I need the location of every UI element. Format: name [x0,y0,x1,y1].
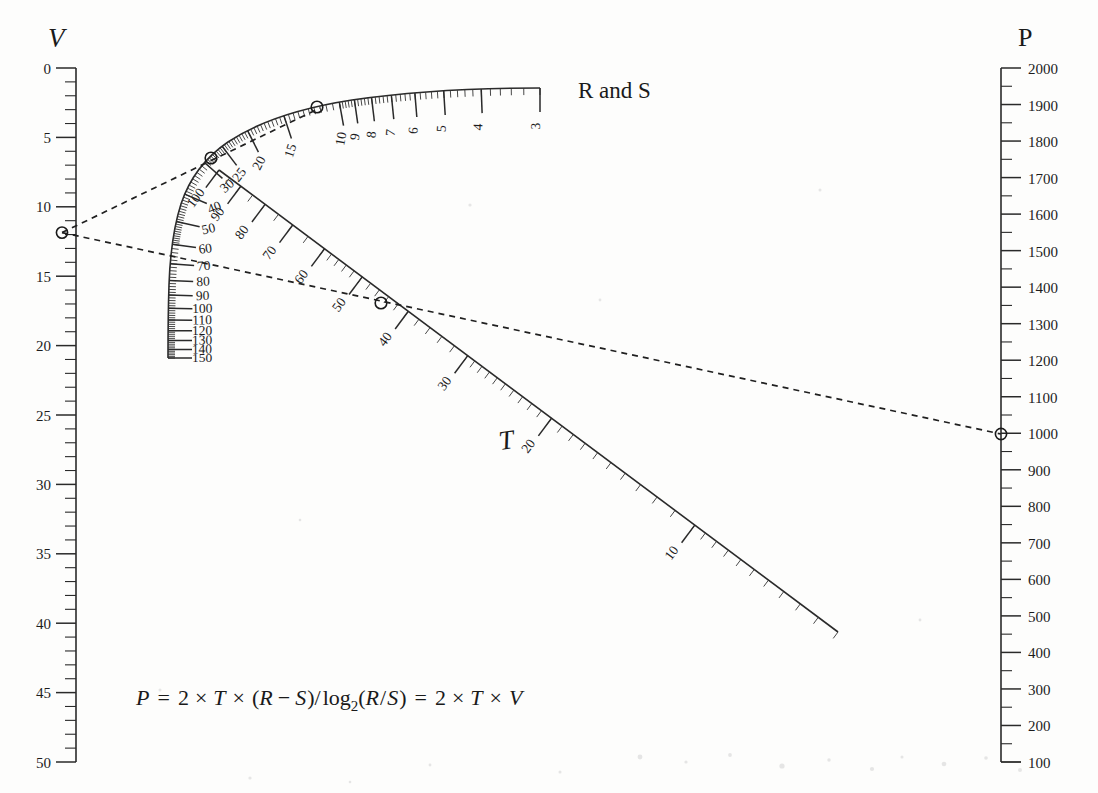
t-tick-major [455,356,468,374]
rs-tick-minor [173,238,180,239]
t-tick-minor [509,390,514,396]
t-tick-minor [425,328,430,334]
t-tick-minor [248,195,253,201]
rs-tick-minor [175,229,182,230]
t-tick-major [349,277,362,295]
rs-tick-label: 60 [198,240,214,257]
rs-tick-label: 8 [363,130,379,139]
p-tick-label: 1200 [1028,353,1058,369]
formula-slash2: / [380,685,387,710]
rs-tick-minor [275,119,277,126]
rs-tick-minor [361,99,362,106]
rs-tick-minor [177,219,184,221]
t-tick-major [538,418,551,436]
formula-log: log [323,685,351,710]
p-tick-label: 1500 [1028,244,1058,260]
rs-tick-label: 3 [528,122,543,129]
p-tick-label: 1900 [1028,98,1058,114]
rs-tick-major [169,280,193,281]
t-tick-label: 10 [661,543,681,563]
p-tick-label: 1800 [1028,134,1058,150]
rs-tick-minor [176,224,183,225]
v-tick-label: 10 [36,199,51,215]
v-tick-label: 40 [36,616,51,632]
rs-tick-minor [231,140,235,146]
t-tick-label: 40 [375,329,395,349]
t-tick-minor [796,604,801,610]
rs-tick-minor [405,94,406,101]
rs-tick-major [170,264,194,266]
t-scale-title: T [497,424,518,456]
upper-index-line [62,108,320,233]
t-tick-minor [349,271,354,277]
t-tick-minor [712,541,717,547]
t-tick-minor [779,592,784,598]
rs-tick-minor [199,169,205,173]
formula-r-b: R [365,685,380,710]
rs-tick-minor [236,137,240,143]
rs-tick-major [354,100,357,124]
rs-tick-minor [172,242,179,243]
formula-paren2-close: ) [399,685,406,710]
t-tick-minor [701,533,706,539]
v-tick-label: 30 [36,477,51,493]
rs-tick-minor [326,105,327,112]
v-tick-label: 0 [44,61,52,77]
rs-tick-minor [375,97,376,104]
p-tick-label: 500 [1028,609,1051,625]
rs-tick-major [172,244,196,247]
rs-tick-label: 70 [196,258,211,274]
t-ticks [206,170,838,638]
rs-tick-major [481,89,482,113]
t-scale: 102030405060708090100 T [184,170,838,638]
t-tick-minor [724,550,729,556]
p-tick-label: 800 [1028,499,1051,515]
rs-tick-minor [345,101,346,108]
t-tick-minor [557,426,562,432]
rs-tick-minor [177,216,184,218]
rs-tick-minor [257,126,260,132]
rs-tick-major [415,93,417,117]
t-tick-major [252,204,265,222]
rs-tick-label: 10 [332,131,349,147]
rs-tick-minor [254,128,257,134]
rs-tick-label: 9 [347,132,363,141]
rs-tick-minor [178,214,185,216]
rs-tick-minor [293,113,295,120]
t-tick-major [682,525,695,543]
rs-tick-minor [272,120,274,127]
formula-s-a: S [295,685,306,710]
v-tick-label: 15 [36,269,51,285]
formula-eq1: = [157,685,169,710]
t-tick-minor [437,336,442,342]
rs-tick-minor [368,98,369,105]
rs-tick-minor [197,172,203,176]
p-tick-label: 1600 [1028,207,1058,223]
formula-t-a: T [213,685,227,710]
v-axis-tick-labels: 05101520253035404550 [36,61,51,771]
formula-times-a: × [195,685,207,710]
t-tick-labels: 102030405060708090100 [184,185,682,563]
rs-tick-minor [191,182,197,185]
rs-tick-minor [410,93,411,100]
t-tick-minor [274,214,279,220]
t-tick-minor [342,265,347,271]
formula-p: P [135,685,149,710]
p-tick-label: 300 [1028,682,1051,698]
rs-tick-minor [242,134,245,140]
rs-tick-minor [342,102,343,109]
rs-tick-minor [239,135,242,141]
rs-tick-major [391,95,393,119]
t-tick-minor [537,411,542,417]
rs-tick-minor [174,233,181,234]
formula-r-a: R [258,685,273,710]
nomogram-page: V 05101520253035404550 P 200019001800170… [0,0,1098,793]
rs-tick-major [169,295,193,296]
t-tick-minor [450,346,455,352]
formula-paren-open: ( [252,685,259,710]
t-tick-label: 70 [259,243,279,263]
rs-tick-minor [175,226,182,227]
t-tick-label: 80 [232,222,252,242]
t-axis-line [219,170,838,632]
t-tick-minor [670,510,675,516]
